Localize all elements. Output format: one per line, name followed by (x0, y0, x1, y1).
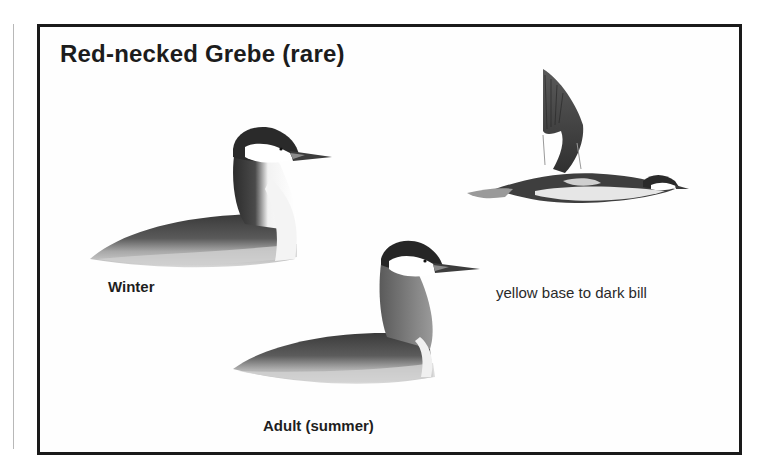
species-plate: Red-necked Grebe (rare) (37, 24, 742, 455)
caption-winter: Winter (108, 278, 155, 295)
caption-bill-note: yellow base to dark bill (496, 284, 647, 301)
flying-grebe-illustration (465, 65, 690, 205)
caption-adult-summer: Adult (summer) (263, 417, 374, 434)
plate-title: Red-necked Grebe (rare) (60, 40, 345, 68)
adult-summer-grebe-illustration (225, 237, 485, 392)
margin-rule (13, 24, 14, 449)
